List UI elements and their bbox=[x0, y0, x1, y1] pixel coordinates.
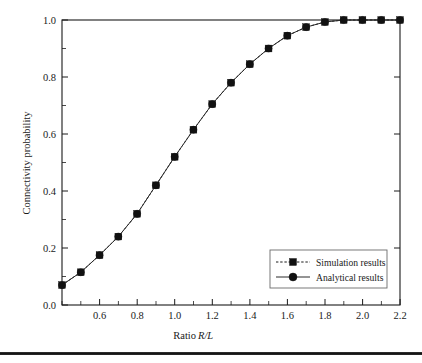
x-axis-title-italic: R/L bbox=[197, 330, 213, 341]
x-tick-label: 1.2 bbox=[206, 310, 219, 321]
bottom-horizontal-rule bbox=[0, 352, 422, 355]
series-analytical bbox=[58, 16, 403, 288]
legend[interactable]: Simulation results Analytical results bbox=[270, 250, 387, 288]
connectivity-probability-chart: 0.6 0.8 1.0 1.2 1.4 1.6 1.8 2.0 2.2 Rati… bbox=[0, 0, 422, 363]
data-point-circle bbox=[378, 16, 385, 23]
data-point-circle bbox=[171, 153, 178, 160]
legend-marker-circle bbox=[289, 273, 297, 281]
x-axis-major-ticks bbox=[100, 299, 401, 305]
y-axis-right-ticks bbox=[394, 77, 400, 248]
data-point-circle bbox=[321, 18, 328, 25]
y-axis-title: Connectivity probability bbox=[21, 111, 32, 215]
legend-marker-square bbox=[290, 259, 297, 266]
data-point-circle bbox=[396, 16, 403, 23]
legend-label-simulation: Simulation results bbox=[316, 257, 386, 268]
data-point-circle bbox=[96, 252, 103, 259]
x-axis-minor-ticks bbox=[62, 301, 381, 305]
y-tick-label: 0.6 bbox=[43, 129, 56, 140]
x-axis-title-plain: Ratio bbox=[173, 330, 196, 341]
y-tick-label: 0.8 bbox=[43, 72, 56, 83]
series-simulation bbox=[59, 17, 404, 289]
y-tick-label: 0.4 bbox=[43, 186, 57, 197]
data-point-circle bbox=[246, 61, 253, 68]
y-tick-label: 0.0 bbox=[43, 300, 56, 311]
series-line bbox=[62, 20, 400, 285]
data-point-circle bbox=[284, 32, 291, 39]
x-axis-tick-labels: 0.6 0.8 1.0 1.2 1.4 1.6 1.8 2.0 2.2 bbox=[93, 310, 407, 321]
data-point-circle bbox=[115, 233, 122, 240]
x-tick-label: 2.2 bbox=[394, 310, 407, 321]
series-line bbox=[62, 20, 400, 285]
y-axis-tick-labels: 0.0 0.2 0.4 0.6 0.8 1.0 bbox=[43, 15, 57, 311]
data-point-circle bbox=[209, 100, 216, 107]
data-point-circle bbox=[303, 24, 310, 31]
legend-entry-analytical[interactable]: Analytical results bbox=[276, 272, 384, 283]
data-point-circle bbox=[265, 45, 272, 52]
figure-container: 0.6 0.8 1.0 1.2 1.4 1.6 1.8 2.0 2.2 Rati… bbox=[0, 0, 422, 363]
x-tick-label: 1.4 bbox=[243, 310, 257, 321]
y-tick-label: 0.2 bbox=[43, 243, 56, 254]
data-point-circle bbox=[227, 79, 234, 86]
x-tick-label: 0.8 bbox=[131, 310, 144, 321]
data-point-circle bbox=[134, 210, 141, 217]
data-point-circle bbox=[152, 182, 159, 189]
y-axis-minor-ticks bbox=[62, 49, 66, 277]
data-point-circle bbox=[77, 269, 84, 276]
data-point-circle bbox=[359, 16, 366, 23]
data-point-circle bbox=[58, 281, 65, 288]
x-tick-label: 1.0 bbox=[168, 310, 181, 321]
y-tick-label: 1.0 bbox=[43, 15, 56, 26]
data-point-circle bbox=[340, 16, 347, 23]
x-axis-title: Ratio R/L bbox=[173, 330, 213, 341]
x-tick-label: 1.6 bbox=[281, 310, 294, 321]
x-tick-label: 1.8 bbox=[318, 310, 331, 321]
x-tick-label: 0.6 bbox=[93, 310, 106, 321]
data-point-circle bbox=[190, 126, 197, 133]
legend-label-analytical: Analytical results bbox=[316, 272, 384, 283]
data-series-layer bbox=[58, 16, 403, 288]
x-tick-label: 2.0 bbox=[356, 310, 369, 321]
